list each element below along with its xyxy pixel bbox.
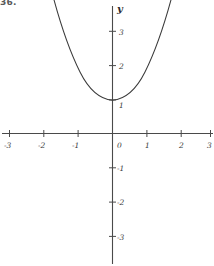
coordinate-plot: -3 -2 -1 0 1 2 3 3 2 1 -1 -2 -3 y	[0, 0, 214, 266]
y-tick-labels: 3 2 1 -1 -2 -3	[117, 28, 125, 242]
y-tick-label-neg3: -3	[117, 233, 125, 242]
x-tick-label-neg1: -1	[72, 141, 79, 150]
y-axis-label: y	[116, 3, 124, 14]
x-tick-label-neg2: -2	[38, 141, 46, 150]
x-tick-labels: -3 -2 -1 0 1 2 3	[4, 141, 212, 150]
x-tick-label-neg3: -3	[4, 141, 12, 150]
y-tick-label-pos1: 1	[119, 101, 124, 110]
x-tick-label-pos3: 3	[207, 141, 212, 150]
graph-canvas: 36. -3 -2 -1 0 1 2	[0, 0, 214, 266]
y-tick-label-neg2: -2	[117, 198, 125, 207]
y-tick-label-pos2: 2	[118, 62, 124, 71]
y-tick-label-pos3: 3	[119, 28, 124, 37]
y-tick-label-neg1: -1	[117, 164, 124, 173]
x-tick-label-zero: 0	[117, 141, 122, 150]
x-tick-label-pos2: 2	[178, 141, 184, 150]
x-tick-label-pos1: 1	[145, 141, 150, 150]
